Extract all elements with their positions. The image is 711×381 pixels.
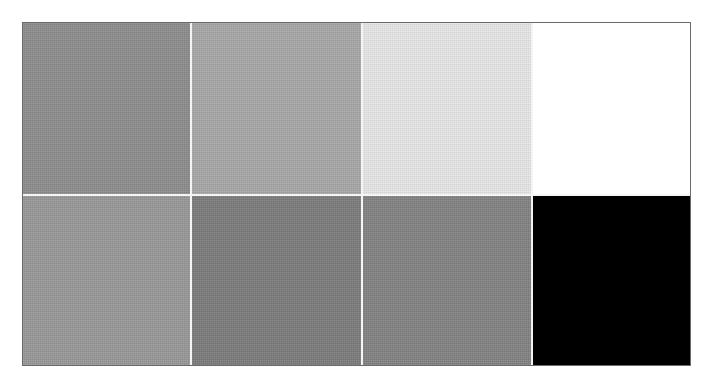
swatch-r2c1 xyxy=(23,196,190,365)
swatch-grid xyxy=(22,22,691,366)
swatch-r1c1 xyxy=(23,23,190,194)
swatch-r2c4 xyxy=(533,196,690,365)
swatch-r1c3 xyxy=(363,23,531,194)
swatch-r1c2 xyxy=(192,23,361,194)
swatch-r2c3 xyxy=(363,196,531,365)
swatch-r2c2 xyxy=(192,196,361,365)
swatch-r1c4 xyxy=(533,23,690,194)
